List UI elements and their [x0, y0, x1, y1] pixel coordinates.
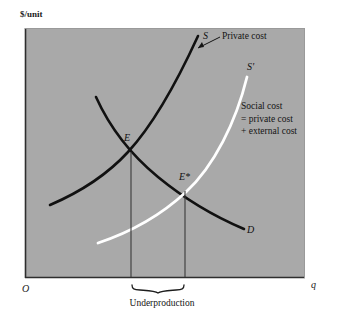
underproduction-text: Underproduction [130, 298, 195, 308]
point-label-e: E [124, 133, 130, 143]
social-cost-line-3: + external cost [241, 125, 297, 138]
underproduction-brace [132, 285, 184, 293]
curve-label-s: S [203, 31, 208, 41]
private-cost-annotation: Private cost [222, 30, 267, 43]
social-cost-line-1: Social cost [241, 100, 297, 113]
x-axis-title: q [311, 280, 316, 290]
plot-texture-overlay [25, 28, 305, 278]
social-cost-annotation: Social cost = private cost + external co… [241, 100, 297, 138]
curve-label-s-prime: S' [247, 62, 254, 72]
origin-label: O [22, 284, 29, 294]
underproduction-annotation: Underproduction [0, 298, 338, 308]
point-label-e-star: E* [179, 172, 190, 182]
y-axis-title: $/unit [20, 10, 43, 19]
social-cost-line-2: = private cost [241, 113, 297, 126]
externality-underproduction-diagram [0, 0, 338, 321]
curve-label-d: D [247, 225, 254, 235]
